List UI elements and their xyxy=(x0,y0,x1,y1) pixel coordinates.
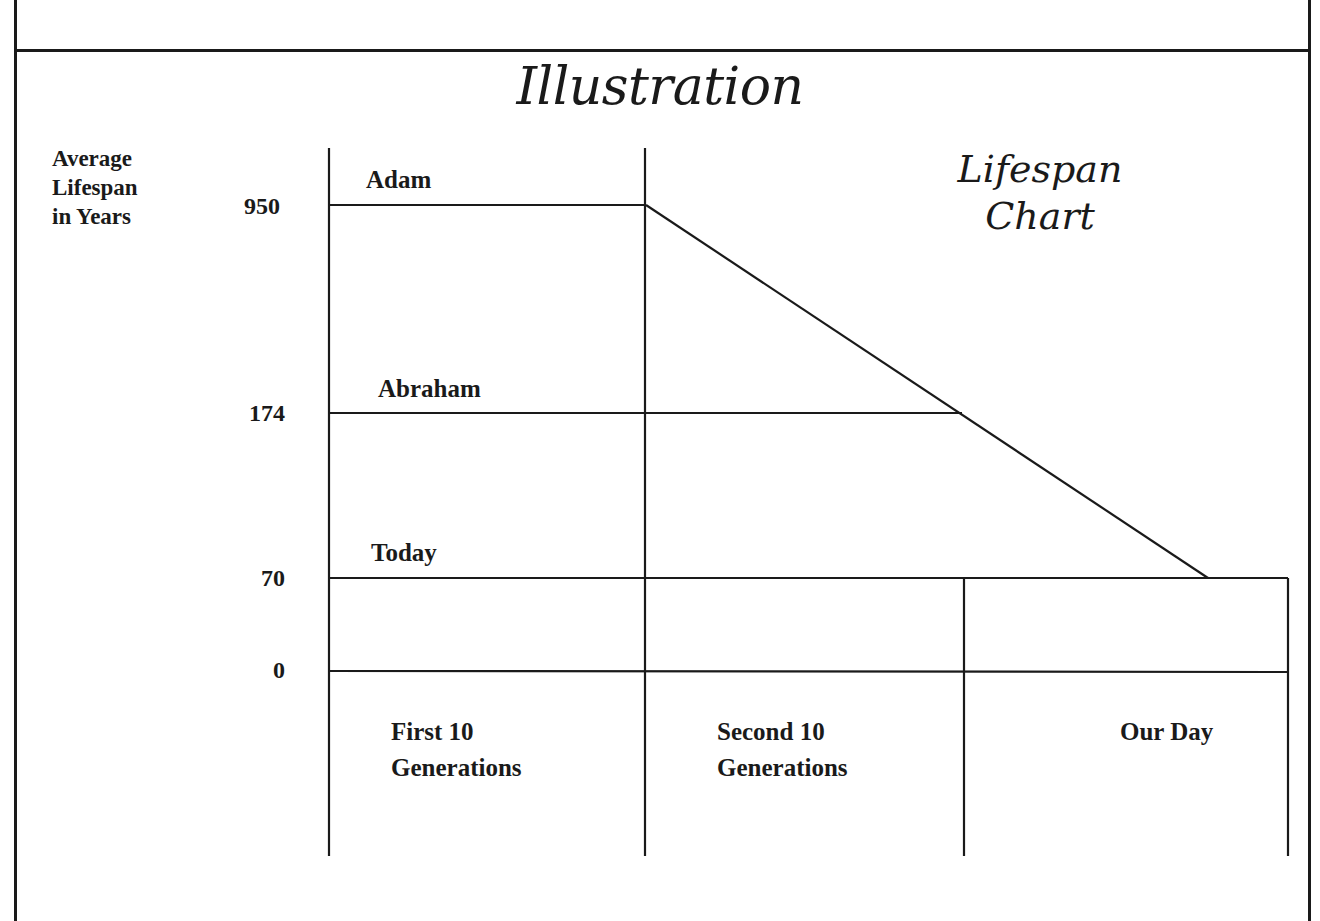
y-axis-label: Average Lifespan in Years xyxy=(52,144,138,231)
category-label-line: Our Day xyxy=(1120,714,1213,750)
chart-title-line: Lifespan xyxy=(900,146,1180,193)
category-label-line: Generations xyxy=(391,750,522,786)
chart-title: Lifespan Chart xyxy=(900,146,1180,240)
y-tick-950: 950 xyxy=(200,193,280,220)
y-axis-label-line: Lifespan xyxy=(52,173,138,202)
point-label-abraham: Abraham xyxy=(378,375,481,403)
y-axis-label-line: Average xyxy=(52,144,138,173)
y-tick-70: 70 xyxy=(205,565,285,592)
y-axis-label-line: in Years xyxy=(52,202,138,231)
category-label-line: Second 10 xyxy=(717,714,848,750)
y-tick-0: 0 xyxy=(205,657,285,684)
category-label-line: First 10 xyxy=(391,714,522,750)
category-label-line: Generations xyxy=(717,750,848,786)
decline-line xyxy=(646,205,1208,578)
point-label-today: Today xyxy=(371,539,437,567)
chart-title-line: Chart xyxy=(900,193,1180,240)
lifespan-chart xyxy=(0,0,1320,921)
category-label-second-10: Second 10 Generations xyxy=(717,714,848,786)
point-label-adam: Adam xyxy=(366,166,431,194)
category-label-our-day: Our Day xyxy=(1120,714,1213,750)
y-tick-174: 174 xyxy=(205,400,285,427)
category-label-first-10: First 10 Generations xyxy=(391,714,522,786)
zero-line xyxy=(329,671,1288,672)
